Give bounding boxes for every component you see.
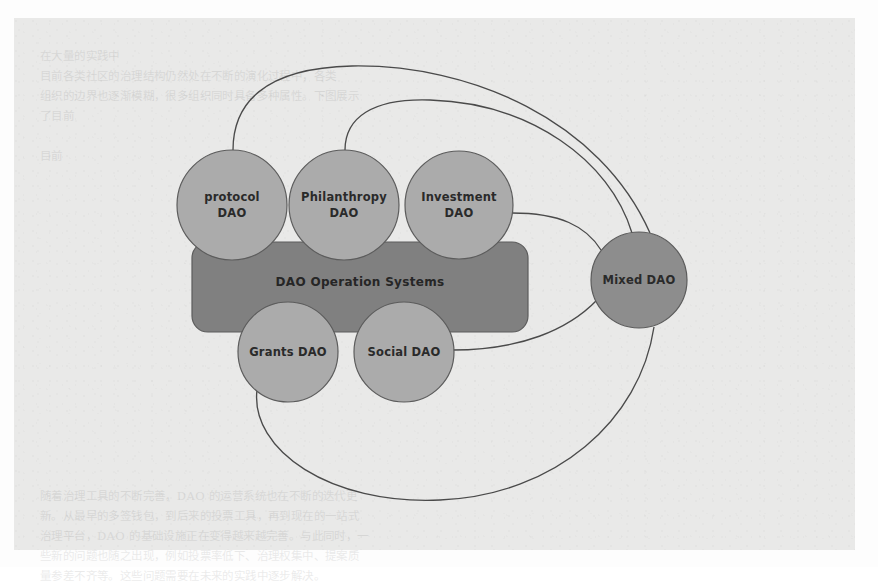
node-label-line: Investment [421,190,497,204]
edge-investment-to-mixed [512,213,601,250]
node-label-line: protocol [204,190,259,204]
node-circle-investment-dao[interactable] [405,151,513,259]
node-circle-protocol-dao[interactable] [177,150,287,260]
node-mixed-dao[interactable]: Mixed DAO [591,232,687,328]
node-label-line: Mixed DAO [603,273,676,287]
node-label-line: DAO [445,206,474,220]
node-label-line: Grants DAO [249,345,327,359]
node-protocol-dao[interactable]: protocolDAO [177,150,287,260]
node-philanthropy-dao[interactable]: PhilanthropyDAO [289,150,399,260]
node-label-line: DAO [218,206,247,220]
node-label-line: DAO [330,206,359,220]
node-investment-dao[interactable]: InvestmentDAO [405,151,513,259]
ghost-text-line: 量参差不齐等。这些问题需要在未来的实践中逐步解决。 [40,566,829,585]
node-label-grants-dao: Grants DAO [249,345,327,359]
group-box-label: DAO Operation Systems [276,275,445,289]
node-social-dao[interactable]: Social DAO [354,302,454,402]
node-label-social-dao: Social DAO [368,345,441,359]
node-circle-philanthropy-dao[interactable] [289,150,399,260]
node-label-mixed-dao: Mixed DAO [603,273,676,287]
node-label-line: Social DAO [368,345,441,359]
node-grants-dao[interactable]: Grants DAO [238,302,338,402]
node-label-line: Philanthropy [301,190,387,204]
